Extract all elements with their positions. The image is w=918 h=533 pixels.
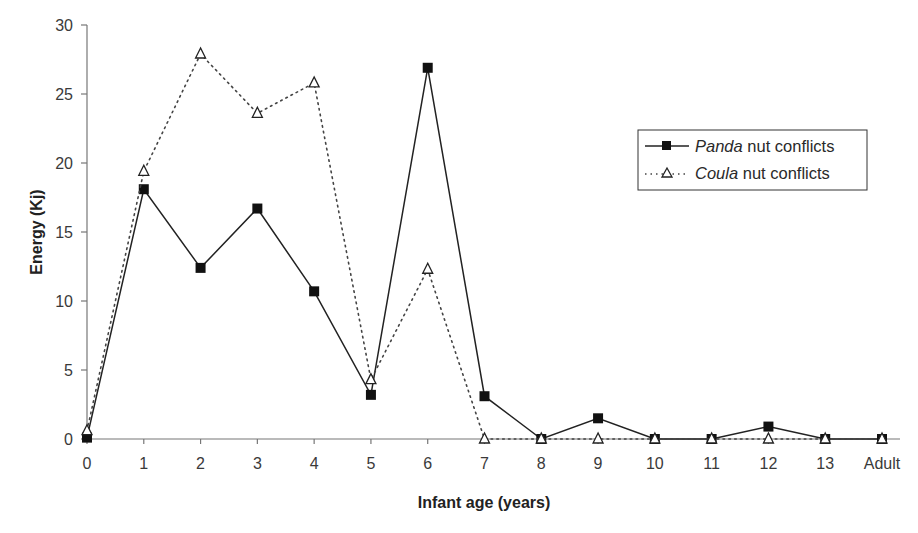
x-tick-label: Adult (864, 455, 901, 472)
x-tick-label: 12 (760, 455, 778, 472)
filled-square-marker-icon (252, 204, 262, 214)
y-tick-label: 15 (55, 224, 73, 241)
y-tick-label: 20 (55, 155, 73, 172)
legend-label-coula: Coula nut conflicts (695, 164, 830, 182)
x-tick-label: 9 (594, 455, 603, 472)
filled-square-marker-icon (366, 390, 376, 400)
filled-square-marker-icon (309, 286, 319, 296)
open-triangle-marker-icon (480, 433, 490, 443)
x-tick-label: 10 (646, 455, 664, 472)
x-tick-label: 11 (703, 455, 720, 472)
line-chart: 051015202530 012345678910111213Adult Ene… (0, 0, 918, 533)
x-tick-label: 3 (253, 455, 262, 472)
legend-label-panda: Panda nut conflicts (695, 137, 834, 155)
y-tick-label: 5 (64, 362, 73, 379)
y-tick-label: 0 (64, 431, 73, 448)
y-tick-label: 30 (55, 17, 73, 34)
filled-square-marker-icon (196, 263, 206, 273)
y-axis-title: Energy (Kj) (28, 189, 45, 274)
filled-square-marker-icon (480, 391, 490, 401)
filled-square-marker-icon (423, 63, 433, 73)
filled-square-marker-icon (763, 422, 773, 432)
x-tick-label: 4 (310, 455, 319, 472)
x-axis: 012345678910111213Adult (83, 439, 901, 472)
x-tick-label: 1 (139, 455, 148, 472)
open-triangle-marker-icon (196, 48, 206, 58)
filled-square-marker-icon (593, 413, 603, 423)
y-axis: 051015202530 (55, 17, 87, 448)
x-tick-label: 8 (537, 455, 546, 472)
open-triangle-marker-icon (309, 77, 319, 87)
filled-square-marker-icon (662, 141, 671, 150)
x-tick-label: 13 (816, 455, 834, 472)
y-tick-label: 10 (55, 293, 73, 310)
series-panda (82, 63, 887, 444)
series-line (87, 68, 882, 439)
series-line (87, 54, 882, 439)
x-tick-label: 2 (196, 455, 205, 472)
open-triangle-marker-icon (82, 425, 92, 435)
series-coula (82, 48, 887, 443)
y-tick-label: 25 (55, 86, 73, 103)
open-triangle-marker-icon (423, 263, 433, 273)
x-tick-label: 5 (366, 455, 375, 472)
open-triangle-marker-icon (593, 433, 603, 443)
x-tick-label: 0 (83, 455, 92, 472)
series-layer (82, 48, 887, 444)
x-tick-label: 6 (423, 455, 432, 472)
open-triangle-marker-icon (139, 165, 149, 175)
open-triangle-marker-icon (763, 433, 773, 443)
x-tick-label: 7 (480, 455, 489, 472)
legend: Panda nut conflicts Coula nut conflicts (638, 130, 867, 190)
x-axis-title: Infant age (years) (418, 494, 550, 511)
